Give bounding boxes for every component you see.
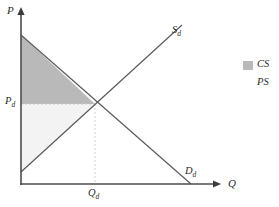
legend: CS PS bbox=[243, 58, 279, 94]
demand-curve-label-main: D bbox=[185, 165, 193, 176]
equilibrium-quantity-label-subscript: d bbox=[96, 192, 100, 201]
quantity-axis-arrow-icon bbox=[213, 180, 221, 187]
quantity-axis-label: Q bbox=[228, 178, 236, 189]
supply-curve-label-subscript: d bbox=[177, 29, 181, 38]
legend-item-cs: CS bbox=[243, 58, 279, 76]
supply-curve-label: Sd bbox=[172, 25, 181, 38]
price-axis-label: P bbox=[7, 5, 14, 16]
legend-label-cs: CS bbox=[257, 59, 269, 70]
demand-curve-label-subscript: d bbox=[193, 170, 197, 179]
equilibrium-price-label-subscript: d bbox=[11, 100, 15, 109]
price-axis-arrow-icon bbox=[17, 7, 24, 15]
legend-item-ps: PS bbox=[243, 76, 279, 94]
equilibrium-price-label: Pd bbox=[5, 96, 15, 109]
legend-swatch-cs-icon bbox=[243, 61, 253, 70]
equilibrium-quantity-label-main: Q bbox=[88, 187, 96, 198]
supply-demand-figure: P Q Sd Dd Pd Qd CS PS bbox=[0, 0, 279, 207]
equilibrium-quantity-label: Qd bbox=[88, 188, 99, 201]
legend-label-ps: PS bbox=[257, 77, 269, 88]
demand-curve-label: Dd bbox=[185, 166, 196, 179]
plot-canvas bbox=[0, 0, 279, 207]
